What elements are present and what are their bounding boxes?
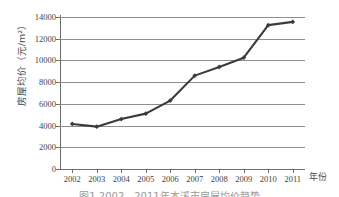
plot-area: 02000400060008000100001200014000 2002200… <box>60 17 305 169</box>
y-tick-label: 10000 <box>35 55 56 65</box>
x-tick-mark <box>219 169 220 173</box>
x-tick-label: 2007 <box>186 174 203 184</box>
y-tick-label: 0 <box>52 164 56 174</box>
y-tick-label: 8000 <box>39 77 56 87</box>
x-tick-label: 2010 <box>260 174 277 184</box>
y-tick-label: 4000 <box>39 121 56 131</box>
x-tick-mark <box>97 169 98 173</box>
x-tick-label: 2005 <box>137 174 154 184</box>
series-line <box>72 22 293 127</box>
x-tick-mark <box>121 169 122 173</box>
data-point-marker <box>290 19 295 24</box>
x-tick-label: 2006 <box>162 174 179 184</box>
x-tick-mark <box>293 169 294 173</box>
x-tick-label: 2008 <box>211 174 228 184</box>
x-tick-mark <box>146 169 147 173</box>
y-tick-label: 14000 <box>35 12 56 22</box>
x-tick-label: 2011 <box>284 174 301 184</box>
x-tick-mark <box>268 169 269 173</box>
x-tick-mark <box>195 169 196 173</box>
x-tick-label: 2003 <box>88 174 105 184</box>
x-tick-mark <box>244 169 245 173</box>
x-tick-label: 2004 <box>113 174 130 184</box>
y-tick-label: 2000 <box>39 142 56 152</box>
x-tick-mark <box>170 169 171 173</box>
chart-figure: 房屋均价（元/m²） 02000400060008000100001200014… <box>0 0 339 197</box>
x-tick-mark <box>72 169 73 173</box>
line-series <box>60 17 305 169</box>
data-point-marker <box>70 122 75 127</box>
x-axis-title: 年份 <box>309 170 327 183</box>
data-point-marker <box>119 117 124 122</box>
y-axis-title: 房屋均价（元/m²） <box>14 8 28 118</box>
y-tick-mark <box>56 169 60 170</box>
figure-caption: 图1 2002—2011年本溪市房屋均价趋势 <box>0 188 339 197</box>
data-point-marker <box>94 124 99 129</box>
y-tick-label: 12000 <box>35 34 56 44</box>
x-tick-label: 2002 <box>64 174 81 184</box>
y-tick-label: 6000 <box>39 99 56 109</box>
x-tick-label: 2009 <box>235 174 252 184</box>
